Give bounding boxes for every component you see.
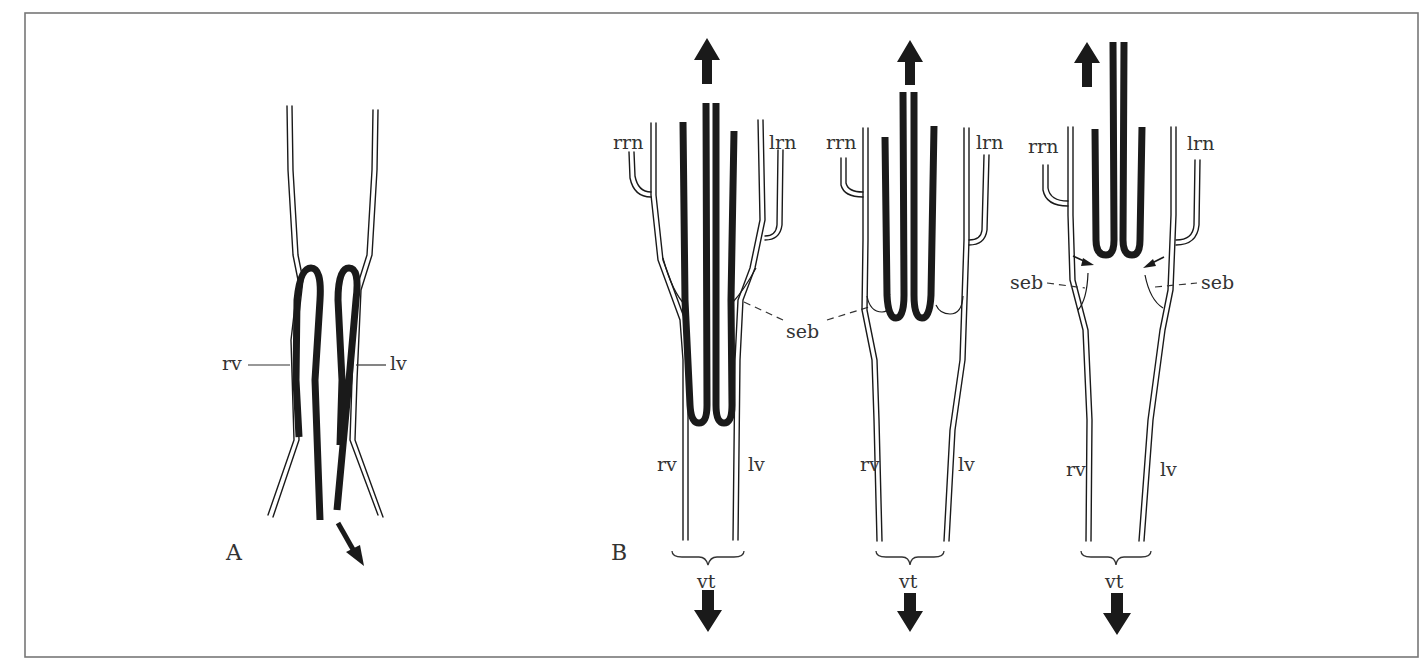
- up-arrow: [1074, 42, 1100, 87]
- label-rv: rv: [860, 453, 880, 475]
- label-vt: vt: [898, 570, 918, 592]
- vt-brace: [876, 551, 944, 565]
- label-seb-left: seb: [1010, 271, 1043, 293]
- folded-tubes: [683, 103, 734, 423]
- label-lrn: lrn: [769, 131, 796, 153]
- inward-arrow-right: [1143, 257, 1164, 268]
- folded-tubes: [1095, 42, 1142, 255]
- label-lv: lv: [748, 453, 765, 475]
- label-rrn: rrn: [613, 131, 643, 153]
- label-rv: rv: [657, 453, 677, 475]
- label-seb: seb: [786, 320, 819, 342]
- vt-brace: [1081, 551, 1151, 565]
- folded-tubes: [885, 92, 934, 318]
- label-lv: lv: [390, 352, 407, 374]
- label-lrn: lrn: [976, 131, 1003, 153]
- panel-b-stage-3: seb seb rrn lrn rv lv vt: [1010, 42, 1234, 635]
- label-lv: lv: [958, 453, 975, 475]
- seb-leader: [1155, 283, 1197, 287]
- panel-b-stage-2: rrn lrn rv lv vt: [826, 40, 1003, 632]
- panel-b-stage-1: seb rrn lrn rv lv vt: [613, 38, 869, 632]
- septum-edge: [936, 296, 963, 314]
- direction-arrow-down-right: [338, 523, 364, 566]
- up-arrow: [694, 38, 720, 84]
- septum-edge: [1145, 275, 1163, 308]
- label-rv: rv: [1066, 458, 1086, 480]
- seb-leader: [744, 302, 783, 320]
- right-wall: [629, 123, 688, 540]
- down-arrow: [1103, 593, 1131, 635]
- left-wall: [733, 120, 783, 540]
- seb-leader: [1047, 283, 1085, 288]
- septum-edge: [1078, 273, 1088, 310]
- down-arrow: [694, 590, 722, 632]
- panel-label-b: B: [611, 540, 627, 565]
- label-vt: vt: [1104, 570, 1124, 592]
- label-rrn: rrn: [1028, 135, 1058, 157]
- folded-tube: [296, 268, 357, 520]
- label-seb-right: seb: [1201, 271, 1234, 293]
- label-lrn: lrn: [1187, 132, 1214, 154]
- label-vt: vt: [696, 570, 716, 592]
- inward-arrow-left: [1073, 256, 1094, 266]
- left-wall: [944, 128, 989, 541]
- down-arrow: [897, 593, 923, 632]
- anatomy-figure: rv lv A B: [0, 0, 1427, 668]
- panel-label-a: A: [225, 540, 243, 565]
- panel-b: B: [611, 38, 1234, 635]
- vt-brace: [672, 551, 744, 565]
- panel-a: rv lv A: [222, 106, 407, 566]
- label-rrn: rrn: [826, 131, 856, 153]
- label-lv: lv: [1160, 458, 1177, 480]
- label-rv: rv: [222, 352, 242, 374]
- right-wall: [841, 128, 882, 541]
- up-arrow: [897, 40, 923, 85]
